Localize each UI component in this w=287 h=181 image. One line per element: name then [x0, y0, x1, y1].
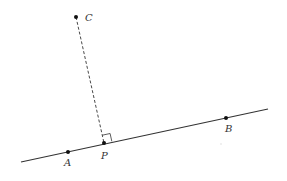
label-C: C [85, 12, 93, 23]
point-B [224, 116, 228, 120]
label-A: A [63, 157, 71, 168]
diagram-canvas: A B C P [0, 0, 287, 181]
perpendicular-CP [76, 17, 104, 143]
stray-mark [220, 143, 222, 145]
point-P [102, 141, 106, 145]
label-B: B [224, 123, 232, 134]
point-C [74, 15, 78, 19]
label-P: P [100, 150, 108, 161]
line-AB [21, 109, 268, 162]
point-A [66, 150, 70, 154]
